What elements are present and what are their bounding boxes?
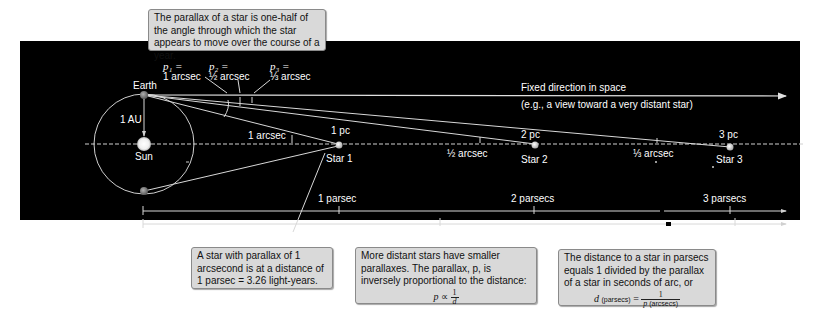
star3-label: Star 3 xyxy=(716,154,743,165)
angle-label-star1: 1 arcsec xyxy=(248,130,286,141)
sightline-star1-bottom xyxy=(144,146,338,191)
star2-icon xyxy=(532,142,539,149)
star1-icon xyxy=(336,142,343,149)
leader-p3 xyxy=(254,80,270,93)
earth-label: Earth xyxy=(133,80,157,91)
eq-d-symbol: d xyxy=(594,292,599,303)
eq-p-symbol: p xyxy=(434,290,439,301)
fixed-direction-sublabel: (e.g., a view toward a very distant star… xyxy=(521,99,693,110)
fixed-direction-arrow xyxy=(144,95,786,96)
eq-fraction: 1 p (arcsecs) xyxy=(641,291,680,308)
angle-label-star2: ½ arcsec xyxy=(447,148,488,159)
p2-value: ½ arcsec xyxy=(209,71,250,82)
inverse-proportion-equation: p ∝ 1 d xyxy=(361,289,531,306)
earth-bottom-icon xyxy=(140,187,148,195)
parsec-tick-label-3: 3 parsecs xyxy=(703,193,746,204)
eq-p-unit: (arcsecs) xyxy=(649,300,678,307)
star1-label: Star 1 xyxy=(326,153,353,164)
parsec-tick-label-1: 1 parsec xyxy=(318,193,356,204)
callout-distance-formula: The distance to a star in parsecs equals… xyxy=(558,249,716,306)
sightline-star2-top xyxy=(144,95,535,144)
callout-one-parsec: A star with parallax of 1 arcsecond is a… xyxy=(191,247,333,289)
distance-label-1pc: 1 pc xyxy=(331,125,350,136)
sightline-star1-top xyxy=(144,95,338,144)
star2-label: Star 2 xyxy=(521,154,548,165)
faint-dot xyxy=(712,166,714,168)
eq-denominator: d xyxy=(451,298,459,306)
faint-dot xyxy=(655,161,657,163)
parsec-tick-label-2: 2 parsecs xyxy=(511,193,554,204)
sun-icon xyxy=(137,137,151,151)
callout-distance-formula-text: The distance to a star in parsecs equals… xyxy=(564,252,709,288)
eq-equals: = xyxy=(633,292,639,303)
fixed-direction-label: Fixed direction in space xyxy=(521,82,626,93)
eq-denominator: p (arcsecs) xyxy=(641,300,680,308)
callout-one-parsec-text: A star with parallax of 1 arcsecond is a… xyxy=(197,250,324,286)
callout-inverse-proportion: More distant stars have smaller parallax… xyxy=(355,247,537,304)
p1-value: 1 arcsec xyxy=(163,71,201,82)
eq-p-symbol: p xyxy=(643,299,647,308)
p3-value: ⅓ arcsec xyxy=(270,71,311,82)
angle-label-star3: ⅓ arcsec xyxy=(633,148,674,159)
distance-label-2pc: 2 pc xyxy=(521,129,540,140)
callout-parallax-definition: The parallax of a star is one-half of th… xyxy=(148,9,326,51)
parsec-scale-break xyxy=(660,209,664,213)
au-label: 1 AU xyxy=(120,114,142,125)
eq-proportional-symbol: ∝ xyxy=(441,290,448,301)
distance-label-3pc: 3 pc xyxy=(719,129,738,140)
lightyear-tick-label-10: 10 light-years xyxy=(701,231,761,242)
lightyear-scale-break xyxy=(666,222,671,226)
eq-fraction: 1 d xyxy=(451,289,459,306)
distance-equation: d (parsecs) = 1 p (arcsecs) xyxy=(564,291,710,308)
eq-d-unit: (parsecs) xyxy=(601,295,630,302)
earth-top-icon xyxy=(140,91,148,99)
sun-label: Sun xyxy=(135,151,153,162)
callout-inverse-proportion-text: More distant stars have smaller parallax… xyxy=(361,250,527,286)
star3-icon xyxy=(727,144,734,151)
lightyear-tick-label-5: 5 light-years xyxy=(409,231,463,242)
